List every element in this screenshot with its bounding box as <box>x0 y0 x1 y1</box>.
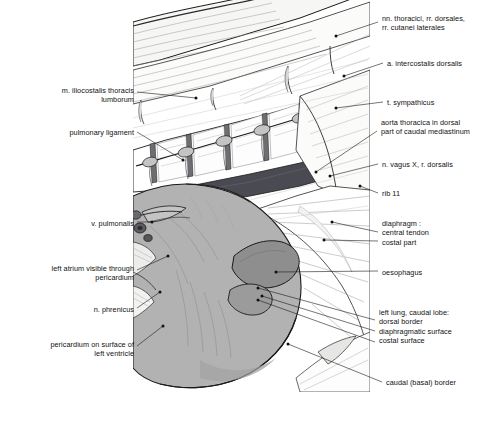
label-rib-11: rib 11 <box>382 189 488 198</box>
label-line: left lung, caudal lobe: <box>379 308 489 317</box>
label-line: rr. cutanei laterales <box>382 23 488 32</box>
label-line: lumborum <box>18 95 134 104</box>
label-diaphragm-group: diaphragm :central tendoncostal part <box>382 219 488 247</box>
label-line: pulmonary ligament <box>18 128 134 137</box>
label-line: nn. thoracici, rr. dorsales, <box>382 14 488 23</box>
label-caudal-basal-border: caudal (basal) border <box>386 378 489 387</box>
label-line: left ventricle <box>6 349 134 358</box>
label-line: n. vagus X, r. dorsalis <box>382 160 488 169</box>
label-oesophagus: oesophagus <box>382 268 488 277</box>
label-line: left atrium visible through <box>6 264 134 273</box>
label-line: n. phrenicus <box>18 305 134 314</box>
label-line: caudal (basal) border <box>386 378 489 387</box>
label-pulmonary-ligament: pulmonary ligament <box>18 128 134 137</box>
label-line: oesophagus <box>382 268 488 277</box>
label-m-iliocostalis-thoracis-lumborum: m. iliocostalis thoracislumborum <box>18 86 134 105</box>
label-v-pulmonalis: v. pulmonalis <box>18 219 134 228</box>
label-line: diaphragmatic surface <box>379 327 489 336</box>
label-n-phrenicus: n. phrenicus <box>18 305 134 314</box>
label-line: pericardium <box>6 273 134 282</box>
label-line: dorsal border <box>379 317 489 326</box>
label-left-atrium-visible-through-pericardium: left atrium visible throughpericardium <box>6 264 134 283</box>
label-line: costal part <box>382 238 488 247</box>
label-n-vagus-x-r-dorsalis: n. vagus X, r. dorsalis <box>382 160 488 169</box>
label-line: m. iliocostalis thoracis <box>18 86 134 95</box>
label-nn-thoracici-rr-dorsales-rr-cutanei-laterales: nn. thoracici, rr. dorsales,rr. cutanei … <box>382 14 488 33</box>
label-line: t. sympathicus <box>387 98 488 107</box>
label-line: aorta thoracica in dorsal <box>381 118 489 127</box>
label-t-sympathicus: t. sympathicus <box>387 98 488 107</box>
illustration-panel <box>131 0 370 392</box>
label-line: part of caudal mediastinum <box>381 127 489 136</box>
label-pericardium-on-surface-of-left-ventricle: pericardium on surface ofleft ventricle <box>6 340 134 359</box>
label-line: v. pulmonalis <box>18 219 134 228</box>
label-line: rib 11 <box>382 189 488 198</box>
label-line: a. intercostalis dorsalis <box>387 59 488 68</box>
label-aorta-thoracica-in-dorsal-part-of-caudal-mediastinum: aorta thoracica in dorsalpart of caudal … <box>381 118 489 137</box>
label-line: costal surface <box>379 336 489 345</box>
label-line: pericardium on surface of <box>6 340 134 349</box>
label-line: diaphragm : <box>382 219 488 228</box>
label-a-intercostalis-dorsalis: a. intercostalis dorsalis <box>387 59 488 68</box>
label-line: central tendon <box>382 228 488 237</box>
label-left-lung-caudal-lobe-group: left lung, caudal lobe:dorsal borderdiap… <box>379 308 489 346</box>
